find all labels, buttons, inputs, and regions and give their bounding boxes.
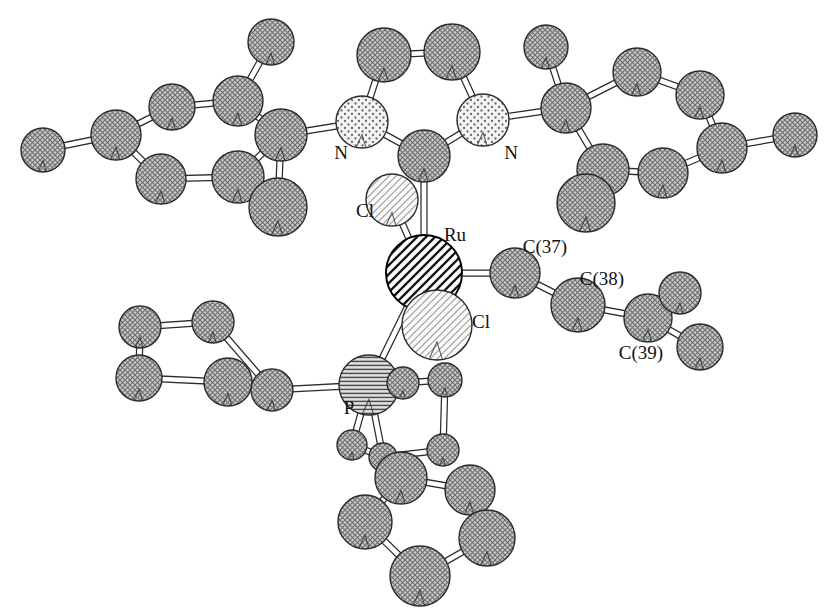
atom-c3: [149, 84, 195, 130]
atom-c12: [398, 130, 450, 182]
label-P: P: [344, 397, 355, 418]
atom-c25: [204, 358, 252, 406]
label-Ru: Ru: [444, 224, 467, 245]
atom-c15: [613, 48, 661, 96]
atom-c26: [251, 369, 293, 411]
atom-c29: [427, 434, 459, 466]
atom-c2: [91, 110, 141, 160]
atom-c34: [338, 495, 392, 549]
atom-c32: [375, 452, 427, 504]
label-C39: C(39): [619, 342, 663, 364]
atom-c22: [119, 306, 161, 348]
atom-n1: [336, 96, 388, 148]
atom-c14: [524, 25, 568, 69]
atom-c11: [424, 24, 480, 80]
label-Cl-lower: Cl: [472, 311, 490, 332]
atom-c33: [445, 465, 495, 515]
atom-c23: [192, 301, 234, 343]
atom-c16: [676, 71, 724, 119]
atom-c28: [428, 363, 462, 397]
atom-c7: [136, 154, 186, 204]
atom-c13: [541, 83, 591, 133]
atom-c1: [21, 128, 65, 172]
atom-c5: [248, 19, 294, 65]
label-Cl-upper: Cl: [356, 200, 374, 221]
atom-c27: [387, 367, 419, 399]
atom-c35: [459, 510, 515, 566]
atom-c9: [249, 178, 307, 236]
atom-layer: [21, 19, 817, 606]
atom-c41: [677, 324, 723, 370]
atom-c18: [773, 113, 817, 157]
label-N-left: N: [334, 142, 348, 163]
ortep-diagram-canvas: NNClRuClC(37)C(38)C(39)P: [0, 0, 831, 615]
atom-n2: [457, 94, 509, 146]
atom-c10: [357, 28, 411, 82]
label-C37: C(37): [523, 236, 567, 258]
atom-c40: [659, 272, 701, 314]
atom-c19: [638, 148, 688, 198]
atom-c4: [213, 76, 263, 126]
molecular-structure-figure: NNClRuClC(37)C(38)C(39)P: [0, 0, 831, 615]
atom-c21: [557, 174, 615, 232]
atom-c30: [337, 430, 367, 460]
atom-c24: [116, 355, 162, 401]
label-N-right: N: [504, 142, 518, 163]
atom-c36: [390, 546, 450, 606]
atom-c17: [697, 123, 747, 173]
atom-c6: [255, 109, 307, 161]
atom-cl2: [402, 290, 472, 360]
label-C38: C(38): [580, 268, 624, 290]
